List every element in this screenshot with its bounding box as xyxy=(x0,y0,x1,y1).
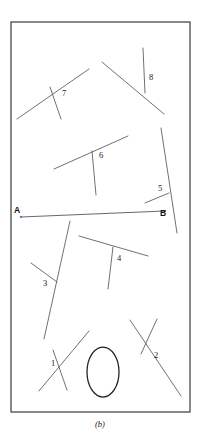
fault-7-label: 7 xyxy=(62,88,66,98)
fault-6-label: 6 xyxy=(99,150,103,160)
fault-2-label: 2 xyxy=(154,350,158,360)
fault-3-label: 3 xyxy=(43,278,47,288)
cross-section-label-a: A xyxy=(14,205,20,215)
cross-section-start-point xyxy=(20,216,22,218)
figure-caption: (b) xyxy=(95,419,105,429)
cross-section-label-b: B xyxy=(160,208,166,218)
fault-1-label: 1 xyxy=(51,358,55,368)
fault-5-label: 5 xyxy=(158,183,162,193)
figure-container: 1 2 3 4 5 6 7 xyxy=(0,0,201,439)
structural-map-figure: 1 2 3 4 5 6 7 xyxy=(0,0,201,439)
fault-8-label: 8 xyxy=(149,72,153,82)
